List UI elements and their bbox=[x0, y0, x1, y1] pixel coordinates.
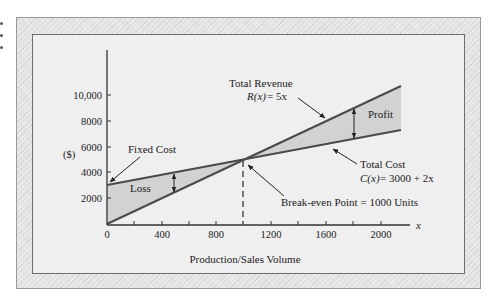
x-tick-labels: 0 400 800 1200 1600 2000 bbox=[104, 229, 391, 240]
x-axis-symbol: x bbox=[415, 219, 421, 231]
y-tick-2000: 2000 bbox=[81, 193, 102, 204]
break-even-chart: 10,000 8000 6000 4000 2000 0 400 800 120… bbox=[0, 0, 488, 300]
cost-pointer bbox=[333, 149, 357, 164]
profit-label: Profit bbox=[368, 108, 393, 120]
fixed-cost-label: Fixed Cost bbox=[128, 143, 176, 155]
revenue-title: Total Revenue bbox=[229, 77, 293, 89]
cost-formula-rhs: = 3000 + 2x bbox=[380, 172, 434, 184]
total-cost-line bbox=[107, 130, 401, 185]
x-tick-1600: 1600 bbox=[316, 229, 337, 240]
y-axis-label: ($) bbox=[63, 149, 76, 161]
y-tick-labels: 10,000 8000 6000 4000 2000 bbox=[73, 90, 102, 204]
y-tick-10000: 10,000 bbox=[73, 90, 102, 101]
x-tick-400: 400 bbox=[154, 229, 170, 240]
cost-formula-lhs: C(x) bbox=[360, 172, 380, 185]
x-axis-label: Production/Sales Volume bbox=[189, 253, 300, 265]
x-tick-1200: 1200 bbox=[261, 229, 282, 240]
break-even-label: Break-even Point = 1000 Units bbox=[281, 196, 418, 208]
x-tick-800: 800 bbox=[208, 229, 224, 240]
fixed-cost-pointer bbox=[110, 157, 140, 182]
y-tick-8000: 8000 bbox=[81, 116, 102, 127]
cost-title: Total Cost bbox=[360, 158, 405, 170]
y-tick-6000: 6000 bbox=[81, 142, 102, 153]
break-even-pointer bbox=[248, 165, 284, 196]
x-tick-2000: 2000 bbox=[371, 229, 392, 240]
revenue-formula-rhs: = 5x bbox=[267, 90, 287, 102]
loss-label: Loss bbox=[130, 182, 151, 194]
y-tick-4000: 4000 bbox=[81, 167, 102, 178]
revenue-pointer bbox=[298, 98, 325, 118]
revenue-formula-lhs: R(x) bbox=[246, 90, 266, 103]
x-tick-0: 0 bbox=[104, 229, 109, 240]
